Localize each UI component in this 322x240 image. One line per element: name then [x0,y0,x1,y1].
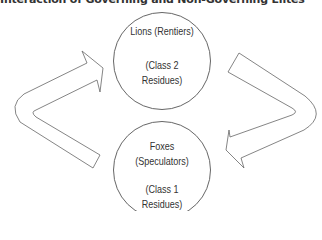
foxes-detail-line1: (Class 1 [121,182,203,196]
left-cycle-arrow-icon [15,51,103,168]
lions-detail-line1: (Class 2 [121,58,203,72]
right-cycle-arrow-icon [226,53,316,168]
foxes-name-line1: Foxes [121,139,203,153]
foxes-detail-line2: Residues) [121,197,203,211]
lions-name-label: Lions (Rentiers) [121,24,203,38]
lions-detail-line2: Residues) [121,73,203,87]
foxes-name-line2: (Speculators) [121,154,203,168]
